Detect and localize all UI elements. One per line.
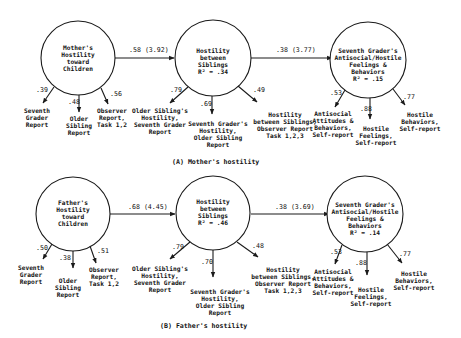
path-coefficient: .38 (3.69)	[275, 203, 315, 211]
loading-arrow	[90, 246, 96, 263]
indicator-group-b2: .79 Older Sibling's Hostility, Seventh G…	[132, 242, 315, 317]
indicator-label: Antisocial	[314, 110, 352, 117]
indicator-label: Report	[20, 278, 43, 286]
path-coefficient: .58 (3.92)	[129, 46, 169, 54]
indicator-label: Self-report	[400, 125, 441, 133]
indicator-label: Task 1,2,3	[264, 287, 302, 294]
node-label-line: Seventh Grader's	[335, 201, 395, 208]
indicator-label: Seventh Grader's	[190, 288, 250, 295]
indicator-label: Antisocial	[314, 268, 352, 275]
indicator-label: Hostile	[407, 111, 433, 118]
node-r-squared: R² = .34	[198, 68, 228, 75]
indicator-label: Hostile	[401, 270, 427, 277]
node-label-line: Father's	[58, 199, 88, 206]
indicator-label: Task 1,2	[97, 121, 127, 128]
loading-value: .56	[110, 90, 122, 98]
node-label-line: toward	[67, 58, 90, 65]
loading-value: .48	[68, 98, 80, 106]
indicator-label: Attitudes &	[313, 275, 354, 282]
indicator-label: Report	[149, 286, 172, 294]
loading-value: .50	[36, 244, 48, 252]
loading-value: .79	[170, 86, 182, 94]
latent-node-seventh-grader-antisocial: Seventh Grader's Antisocial/Hostile Feel…	[327, 176, 403, 252]
latent-node-sibling-hostility: Hostility between Siblings R² = .46	[176, 176, 250, 250]
loading-value: .51	[97, 247, 109, 255]
indicator-label: Report	[26, 121, 49, 129]
loading-value: .88	[360, 105, 372, 113]
indicator-label: Behaviors,	[401, 118, 438, 125]
indicator-label: Observer	[89, 266, 119, 273]
loading-value: .53	[330, 248, 342, 256]
indicator-label: Seventh Grader	[134, 279, 186, 286]
indicator-group-a3: .53 Antisocial Attitudes & Behaviors, Se…	[313, 89, 441, 147]
indicator-label: Self-report	[394, 284, 435, 292]
indicator-label: Task 1,2,3	[266, 132, 304, 139]
node-label-line: Seventh Grader's	[338, 47, 398, 54]
indicator-label: Self-report	[313, 131, 354, 139]
path-coefficient: .38 (3.77)	[276, 46, 316, 54]
loading-arrow	[101, 88, 108, 104]
indicator-label: Seventh Grader's	[188, 120, 248, 127]
latent-node-fathers-hostility: Father's Hostility toward Children	[36, 177, 110, 251]
path-coefficient: .68 (4.45)	[128, 203, 168, 211]
panel-a-mothers-hostility: .58 (3.92) .38 (3.77) Mother's Hostility…	[24, 20, 441, 166]
loading-value: .77	[399, 250, 411, 258]
node-label-line: between	[200, 205, 226, 212]
latent-node-sibling-hostility: Hostility between Siblings R² = .34	[175, 20, 251, 96]
loading-value: .38	[59, 254, 71, 262]
indicator-label: Behaviors,	[314, 124, 351, 131]
indicator-label: Grader	[26, 114, 49, 121]
panel-caption: (A) Mother's hostility	[172, 158, 259, 166]
node-label-line: Behaviors	[351, 68, 385, 75]
indicator-label: Hostile	[363, 125, 389, 132]
latent-node-seventh-grader-antisocial: Seventh Grader's Antisocial/Hostile Feel…	[330, 22, 406, 98]
indicator-label: Seventh Grader	[134, 121, 186, 128]
indicator-label: Behaviors,	[395, 277, 432, 284]
panel-b-fathers-hostility: .68 (4.45) .38 (3.69) Father's Hostility…	[18, 176, 435, 330]
node-label-line: Antisocial/Hostile	[334, 54, 401, 61]
loading-value: .77	[403, 93, 415, 101]
loading-value: .49	[253, 86, 265, 94]
loading-value: .53	[330, 89, 342, 97]
loading-value: .48	[252, 242, 264, 250]
node-label-line: Behaviors	[348, 222, 382, 229]
indicator-label: Report	[207, 141, 230, 149]
indicator-label: Attitudes &	[313, 117, 354, 124]
indicator-label: Hostile	[358, 286, 384, 293]
indicator-label: Report	[209, 309, 232, 317]
indicator-group-b3: .53 Antisocial Attitudes & Behaviors, Se…	[313, 244, 435, 308]
indicator-label: Seventh	[18, 264, 44, 271]
structural-equation-diagram: .58 (3.92) .38 (3.77) Mother's Hostility…	[0, 0, 461, 338]
node-label-line: Children	[63, 65, 93, 72]
indicator-group-b1: .50 Seventh Grader Report .38 Older Sibl…	[18, 244, 119, 299]
node-label-line: Mother's	[63, 44, 93, 51]
indicator-label: Older	[59, 277, 78, 284]
indicator-group-a2: .79 Older Sibling's Hostility, Seventh G…	[132, 86, 317, 149]
node-r-squared: R² = .46	[198, 219, 228, 226]
loading-value: .70	[201, 258, 213, 266]
loading-value: .69	[200, 100, 212, 108]
node-r-squared: R² = .14	[350, 229, 380, 236]
loading-value: .39	[36, 86, 48, 94]
indicator-label: Grader	[20, 271, 43, 278]
indicator-label: Self-report	[356, 139, 397, 147]
indicator-label: Report	[149, 128, 172, 136]
node-r-squared: R² = .15	[353, 75, 383, 82]
panel-caption: (B) Father's hostility	[160, 322, 247, 330]
node-label-line: Antisocial/Hostile	[331, 208, 398, 215]
node-label-line: Children	[58, 220, 88, 227]
indicator-label: Report	[57, 291, 80, 299]
latent-node-mothers-hostility: Mother's Hostility toward Children	[41, 21, 115, 95]
node-label-line: between	[200, 54, 226, 61]
indicator-label: Self-report	[351, 300, 392, 308]
loading-value: .79	[172, 243, 184, 251]
node-label-line: toward	[62, 213, 85, 220]
indicator-label: Behaviors,	[314, 282, 351, 289]
loading-value: .88	[355, 259, 367, 267]
indicator-label: Older	[70, 115, 89, 122]
indicator-label: Task 1,2	[89, 280, 119, 287]
indicator-label: Report	[68, 129, 91, 137]
indicator-label: Self-report	[313, 289, 354, 297]
indicator-label: Seventh	[24, 107, 50, 114]
indicator-label: Observer	[97, 107, 127, 114]
